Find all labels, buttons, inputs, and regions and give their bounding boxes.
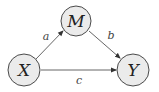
node-m: M [61,6,91,36]
node-y: Y [117,54,149,86]
node-label-m: M [66,11,85,31]
edge-x-to-m [36,31,63,59]
node-label-x: X [16,60,31,80]
node-x: X [8,54,40,86]
edge-label-c: c [76,74,82,87]
mediation-diagram: a b c M X Y [0,0,159,92]
edge-label-a: a [43,30,50,43]
node-label-y: Y [127,60,140,80]
edge-label-b: b [107,29,114,42]
edge-m-to-y [89,31,120,58]
